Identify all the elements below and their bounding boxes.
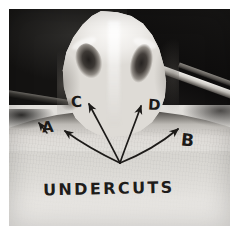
- photograph-plate: A B C D UNDERCUTS: [9, 9, 230, 226]
- arrow-c: [89, 104, 120, 163]
- arrow-label-a: A: [41, 120, 54, 136]
- caption-undercuts: UNDERCUTS: [43, 178, 175, 200]
- arrow-label-d: D: [147, 98, 160, 114]
- arrow-b: [120, 129, 178, 163]
- arrow-label-b: B: [180, 131, 195, 149]
- image-canvas: A B C D UNDERCUTS: [0, 0, 242, 240]
- arrow-label-c: C: [71, 95, 83, 111]
